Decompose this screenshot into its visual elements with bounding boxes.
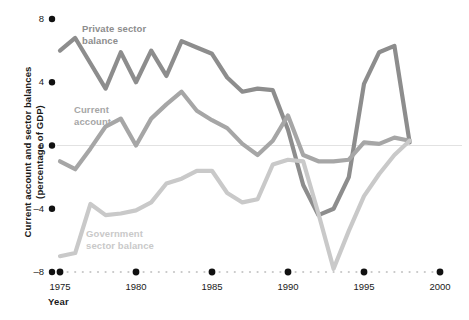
y-tick-label: 0 bbox=[20, 140, 44, 151]
x-axis-dot bbox=[295, 271, 297, 273]
x-axis-dot bbox=[401, 271, 403, 273]
x-tick-label: 1990 bbox=[268, 281, 308, 292]
y-tick-dot bbox=[49, 142, 55, 148]
x-axis-dot bbox=[120, 271, 122, 273]
x-axis-dot bbox=[371, 271, 373, 273]
x-axis-dot bbox=[264, 271, 266, 273]
x-axis-dot bbox=[340, 271, 342, 273]
x-axis-dot bbox=[203, 271, 205, 273]
x-axis-dot bbox=[355, 271, 357, 273]
x-tick-dot bbox=[285, 269, 292, 276]
y-tick-label: 8 bbox=[20, 13, 44, 24]
x-axis-dot bbox=[105, 271, 107, 273]
x-axis-dot bbox=[317, 271, 319, 273]
x-axis-dot bbox=[82, 271, 84, 273]
series-label-line2: balance bbox=[82, 35, 146, 47]
y-tick-dot bbox=[49, 206, 55, 212]
y-tick-label: –8 bbox=[20, 266, 44, 277]
y-tick-label: 4 bbox=[20, 76, 44, 87]
series-line bbox=[60, 38, 410, 215]
x-tick-label: 1975 bbox=[40, 281, 80, 292]
y-tick-dot bbox=[49, 16, 55, 22]
y-axis-tick-markers bbox=[49, 16, 55, 275]
x-axis-dot bbox=[67, 271, 69, 273]
x-tick-label: 1985 bbox=[192, 281, 232, 292]
x-axis-dot bbox=[325, 271, 327, 273]
x-axis-dot bbox=[431, 271, 433, 273]
x-axis-dot bbox=[196, 271, 198, 273]
x-tick-dot bbox=[209, 269, 216, 276]
series-label-line1: Current bbox=[74, 104, 111, 116]
y-tick-label: –4 bbox=[20, 203, 44, 214]
series-label-line2: account bbox=[74, 116, 111, 128]
x-axis-dot bbox=[393, 271, 395, 273]
x-axis-dot bbox=[97, 271, 99, 273]
x-axis-dot bbox=[378, 271, 380, 273]
x-axis-dot bbox=[112, 271, 114, 273]
x-tick-dot bbox=[361, 269, 368, 276]
x-axis-dot bbox=[165, 271, 167, 273]
x-axis-dot bbox=[158, 271, 160, 273]
series-label-line1: Private sector bbox=[82, 23, 146, 35]
x-tick-dot bbox=[57, 269, 64, 276]
x-tick-dot bbox=[133, 269, 140, 276]
x-axis-dot bbox=[188, 271, 190, 273]
y-tick-dot bbox=[49, 79, 55, 85]
x-axis-dot bbox=[127, 271, 129, 273]
x-axis-dot bbox=[416, 271, 418, 273]
x-axis-dot bbox=[333, 271, 335, 273]
series-label: Private sectorbalance bbox=[82, 23, 146, 46]
x-tick-label: 2000 bbox=[420, 281, 460, 292]
x-axis-dot bbox=[89, 271, 91, 273]
x-tick-dot bbox=[437, 269, 444, 276]
x-axis-dot bbox=[310, 271, 312, 273]
x-axis-dot bbox=[302, 271, 304, 273]
series-label: Governmentsector balance bbox=[86, 228, 154, 251]
x-axis-title: Year bbox=[48, 296, 69, 307]
x-axis-dot bbox=[226, 271, 228, 273]
x-axis-dot bbox=[219, 271, 221, 273]
plot-area bbox=[0, 0, 469, 320]
series-label-line1: Government bbox=[86, 228, 154, 240]
x-axis-dot bbox=[348, 271, 350, 273]
y-axis-title: Current account and sector balances (per… bbox=[22, 22, 46, 282]
y-axis-title-line1: Current account and sector balances bbox=[22, 22, 34, 282]
x-axis-dot bbox=[181, 271, 183, 273]
x-axis-dot bbox=[74, 271, 76, 273]
x-axis-dot bbox=[143, 271, 145, 273]
x-axis-dot bbox=[173, 271, 175, 273]
x-axis-dot bbox=[409, 271, 411, 273]
series-label: Currentaccount bbox=[74, 104, 111, 127]
x-tick-label: 1995 bbox=[344, 281, 384, 292]
x-tick-label: 1980 bbox=[116, 281, 156, 292]
x-axis-dotted-line bbox=[59, 271, 441, 273]
x-axis-dot bbox=[257, 271, 259, 273]
y-axis-title-line2: (percentage of GDP) bbox=[34, 22, 46, 282]
x-axis-dot bbox=[249, 271, 251, 273]
x-axis-dot bbox=[386, 271, 388, 273]
x-axis-dot bbox=[150, 271, 152, 273]
x-axis-dot bbox=[272, 271, 274, 273]
y-tick-dot bbox=[49, 269, 55, 275]
chart-figure: Current account and sector balances (per… bbox=[0, 0, 469, 320]
series-label-line2: sector balance bbox=[86, 240, 154, 252]
x-axis-dot bbox=[279, 271, 281, 273]
x-axis-dot bbox=[424, 271, 426, 273]
x-axis-dot bbox=[241, 271, 243, 273]
x-axis-dot bbox=[234, 271, 236, 273]
